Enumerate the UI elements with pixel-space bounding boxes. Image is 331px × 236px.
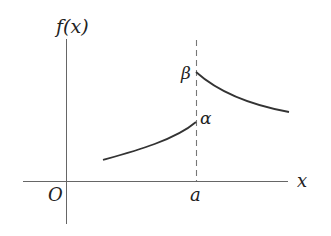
origin-label: O [48, 184, 63, 205]
right-branch-curve [196, 72, 289, 112]
alpha-label: α [200, 108, 212, 128]
function-graph: f(x) x O a α β [0, 0, 331, 236]
beta-label: β [180, 63, 191, 83]
discontinuity-point-label: a [190, 184, 201, 205]
y-axis-label: f(x) [54, 15, 89, 37]
x-axis-label: x [297, 170, 307, 191]
left-branch-curve [103, 122, 196, 160]
